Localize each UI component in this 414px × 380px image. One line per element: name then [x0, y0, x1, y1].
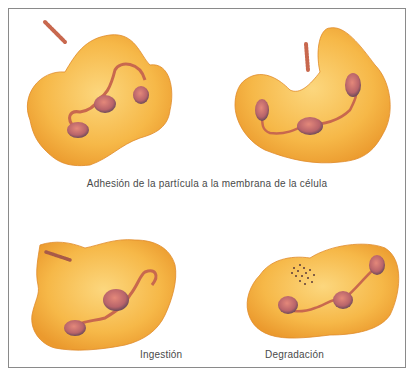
caption-degradation: Degradación	[265, 349, 324, 360]
phagocytosis-illustration	[0, 0, 414, 380]
caption-ingestion: Ingestión	[140, 349, 182, 360]
cell-body	[235, 28, 390, 163]
panel-adhesion-2	[235, 28, 390, 163]
bacterium-particle	[45, 22, 65, 42]
panel-ingestion	[32, 240, 176, 350]
caption-adhesion: Adhesión de la partícula a la membrana d…	[0, 178, 414, 189]
bacterium-particle	[306, 44, 308, 70]
panel-adhesion-1	[27, 22, 171, 166]
panel-degradation	[247, 244, 399, 338]
